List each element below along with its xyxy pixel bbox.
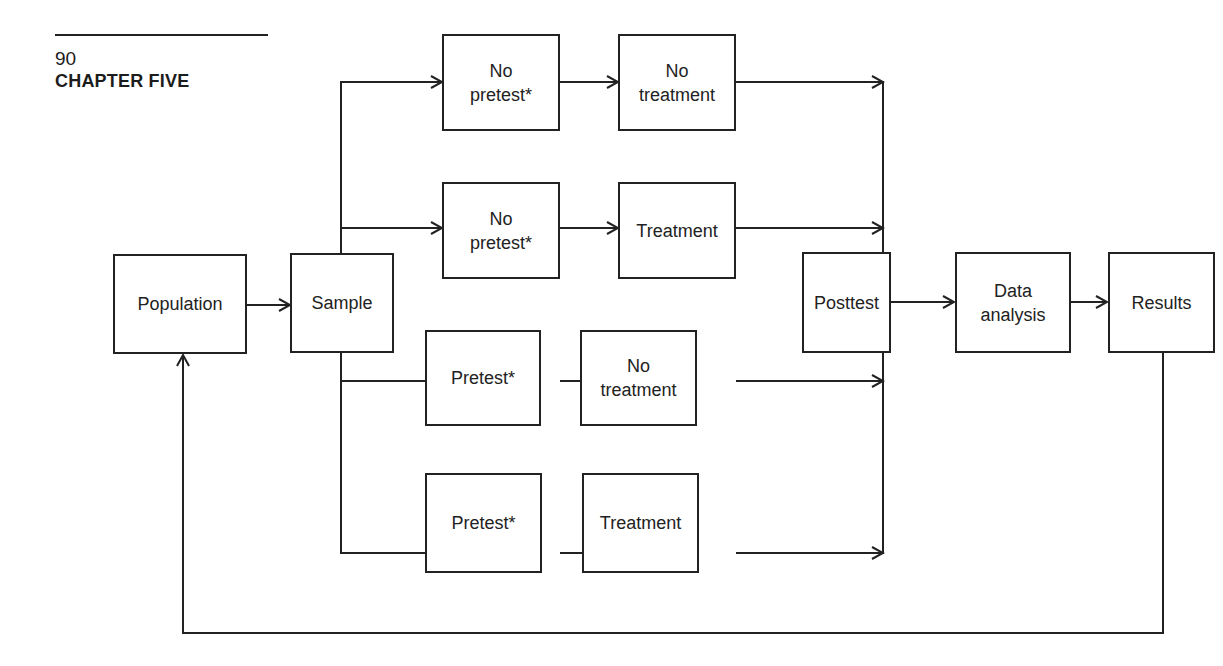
node-data-analysis: Data analysis bbox=[955, 252, 1071, 353]
node-sample: Sample bbox=[290, 253, 394, 353]
node-label: No pretest* bbox=[470, 59, 532, 107]
node-group1-pretest: No pretest* bbox=[442, 34, 560, 131]
node-group4-treatment: Treatment bbox=[582, 473, 699, 573]
node-label: No treatment bbox=[639, 59, 715, 107]
node-label: Posttest bbox=[814, 291, 879, 315]
node-group1-treatment: No treatment bbox=[618, 34, 736, 131]
node-population: Population bbox=[113, 254, 247, 354]
node-label: No treatment bbox=[600, 354, 676, 402]
node-label: No pretest* bbox=[470, 207, 532, 255]
node-group4-pretest: Pretest* bbox=[425, 473, 542, 573]
node-label: Treatment bbox=[600, 511, 681, 535]
node-group3-treatment: No treatment bbox=[580, 330, 697, 426]
node-group3-pretest: Pretest* bbox=[425, 330, 541, 426]
node-label: Pretest* bbox=[451, 511, 515, 535]
node-group2-pretest: No pretest* bbox=[442, 182, 560, 279]
node-label: Data analysis bbox=[980, 279, 1045, 327]
node-label: Population bbox=[137, 292, 222, 316]
node-group2-treatment: Treatment bbox=[618, 182, 736, 279]
node-label: Sample bbox=[311, 291, 372, 315]
node-posttest: Posttest bbox=[802, 252, 891, 353]
node-results: Results bbox=[1108, 252, 1215, 353]
node-label: Pretest* bbox=[451, 366, 515, 390]
node-label: Treatment bbox=[636, 219, 717, 243]
node-label: Results bbox=[1131, 291, 1191, 315]
